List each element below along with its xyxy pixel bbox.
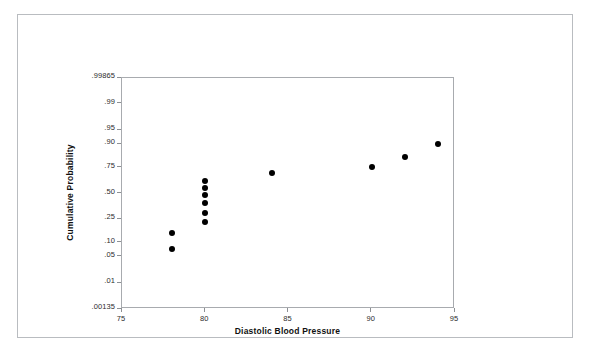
data-point: [169, 230, 175, 236]
data-point: [202, 178, 208, 184]
y-tick-mark: [117, 218, 121, 219]
y-tick-label: .95: [104, 123, 115, 132]
y-tick-mark: [117, 192, 121, 193]
data-point: [435, 141, 441, 147]
x-tick-label: 80: [200, 314, 208, 323]
y-tick-mark: [117, 166, 121, 167]
data-point: [269, 170, 275, 176]
x-tick-mark: [370, 308, 371, 312]
y-tick-label: .90: [104, 137, 115, 146]
x-tick-mark: [454, 308, 455, 312]
y-tick-mark: [117, 143, 121, 144]
y-tick-mark: [117, 282, 121, 283]
y-tick-label: .05: [104, 250, 115, 259]
y-tick-label: .01: [104, 276, 115, 285]
y-tick-mark: [117, 102, 121, 103]
data-point: [202, 219, 208, 225]
y-axis-title: Cumulative Probability: [65, 77, 79, 308]
screenshot-root: .99865.99.95.90.75.50.25.10.05.01.00135 …: [0, 0, 590, 354]
y-tick-mark: [117, 241, 121, 242]
y-axis: .99865.99.95.90.75.50.25.10.05.01.00135: [78, 77, 121, 308]
x-tick-label: 95: [450, 314, 458, 323]
y-tick-label: .10: [104, 236, 115, 245]
x-tick-label: 90: [367, 314, 375, 323]
x-tick-mark: [121, 308, 122, 312]
data-point: [369, 164, 375, 170]
y-tick-mark: [117, 77, 121, 78]
x-axis-title: Diastolic Blood Pressure: [121, 326, 454, 336]
page-border: .99865.99.95.90.75.50.25.10.05.01.00135 …: [17, 14, 573, 338]
data-point: [202, 185, 208, 191]
data-point: [402, 154, 408, 160]
y-tick-mark: [117, 255, 121, 256]
data-point: [169, 246, 175, 252]
x-tick-mark: [204, 308, 205, 312]
y-tick-label: .00135: [91, 302, 115, 311]
y-tick-label: .99: [104, 97, 115, 106]
y-tick-label: .99865: [91, 71, 115, 80]
y-tick-label: .50: [104, 187, 115, 196]
x-tick-label: 85: [283, 314, 291, 323]
y-tick-label: .25: [104, 212, 115, 221]
x-tick-label: 75: [117, 314, 125, 323]
data-point: [202, 200, 208, 206]
y-tick-label: .75: [104, 161, 115, 170]
scatter-plot-area: [122, 78, 453, 307]
x-tick-mark: [287, 308, 288, 312]
data-point: [202, 210, 208, 216]
data-point: [202, 192, 208, 198]
plot-frame: [121, 77, 454, 308]
y-tick-mark: [117, 129, 121, 130]
